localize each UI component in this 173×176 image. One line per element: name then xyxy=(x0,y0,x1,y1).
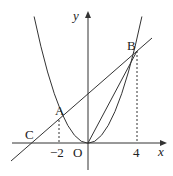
y-axis-label: y xyxy=(71,8,79,23)
tick-label-neg-two: −2 xyxy=(50,145,64,160)
point-b-label: B xyxy=(127,38,136,53)
x-axis-label: x xyxy=(157,144,164,159)
coordinate-diagram: y x O A B C −2 4 xyxy=(0,0,173,176)
segment-ob xyxy=(88,51,137,143)
y-axis-arrow-icon xyxy=(85,11,91,18)
point-a-label: A xyxy=(55,103,65,118)
point-c-label: C xyxy=(25,127,34,142)
tick-label-four: 4 xyxy=(133,145,140,160)
origin-label: O xyxy=(73,145,82,160)
